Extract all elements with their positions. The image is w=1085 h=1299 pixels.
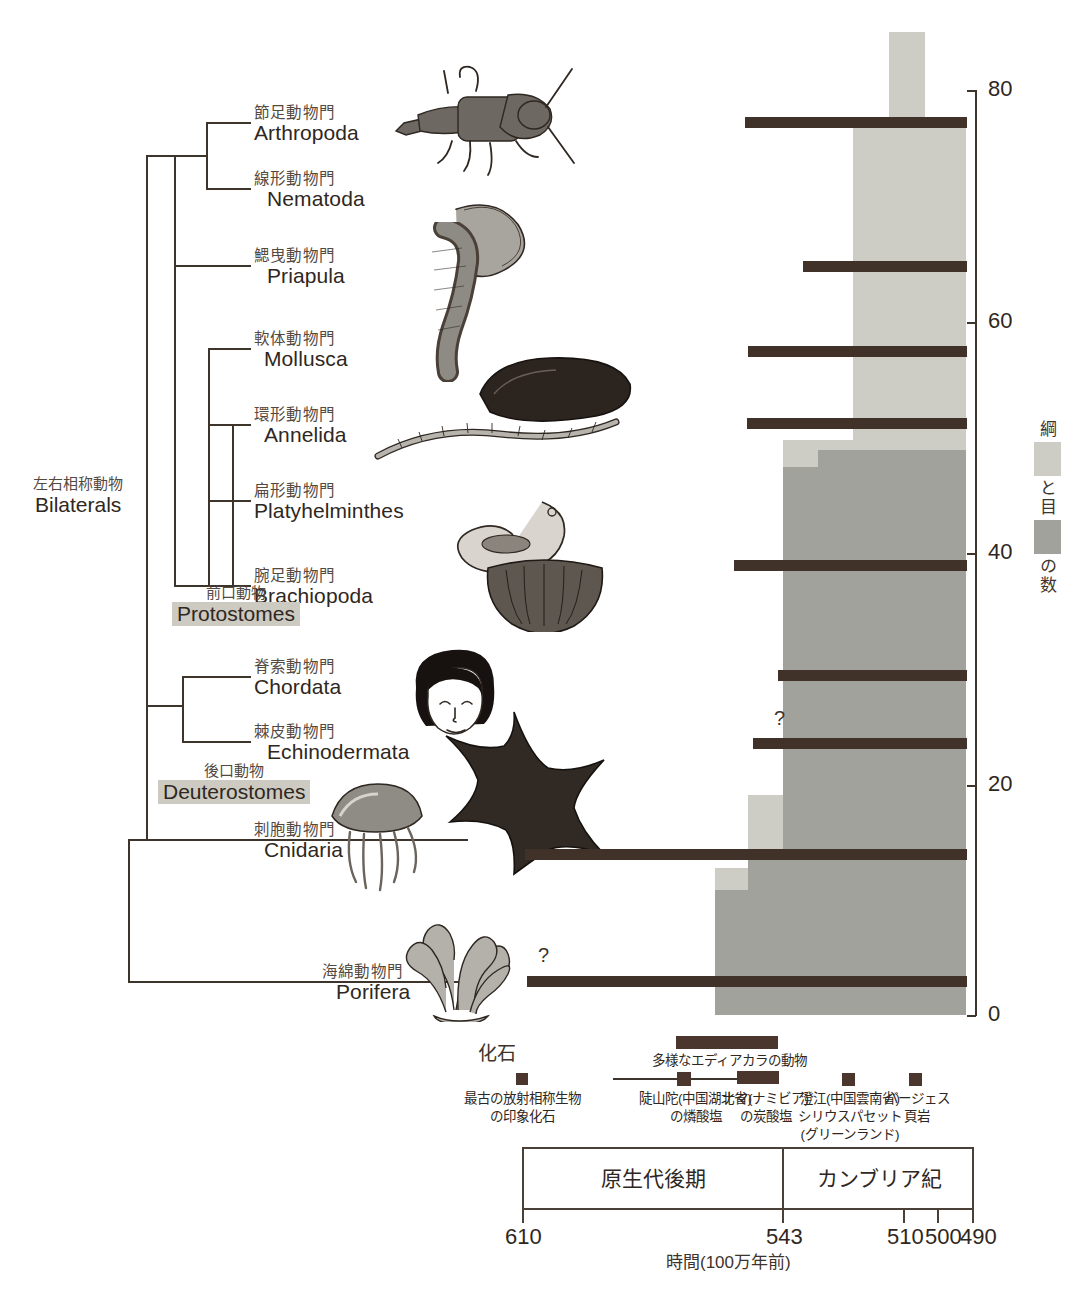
y-tick-label-0: 0 — [988, 1001, 1000, 1027]
time-tick-510 — [903, 1210, 905, 1223]
time-tick-500 — [937, 1210, 939, 1223]
y-tick-20 — [967, 785, 976, 787]
fossil-marker-chengjiang — [842, 1073, 855, 1086]
time-tick-610 — [522, 1210, 524, 1223]
y-tick-label-60: 60 — [988, 308, 1012, 334]
y-tick-60 — [967, 322, 976, 324]
y-tick-label-80: 80 — [988, 76, 1012, 102]
range-bar-porifera — [527, 976, 967, 987]
range-bar-echinodermata — [753, 738, 967, 749]
time-label-610: 610 — [505, 1224, 542, 1250]
order-step-553-543 — [715, 890, 749, 1015]
y-tick-label-20: 20 — [988, 771, 1012, 797]
y-tick-label-40: 40 — [988, 539, 1012, 565]
fossil-label-ediacaran-fauna: 多様なエディアカラの動物 — [629, 1052, 829, 1070]
chart-legend: 綱 と目 の数 — [1025, 420, 1069, 595]
legend-label-classes: 綱 — [1035, 420, 1060, 439]
uncertainty-marker-porifera: ? — [538, 944, 549, 967]
y-tick-0 — [967, 1015, 976, 1017]
legend-label-orders: と目 — [1035, 479, 1060, 517]
range-bar-cnidaria — [525, 849, 967, 860]
fossil-heading: 化石 — [478, 1038, 516, 1065]
fossil-marker-ediacaran-fauna — [676, 1036, 778, 1049]
time-label-510: 510 — [887, 1224, 924, 1250]
order-step-543-535 — [748, 850, 784, 1015]
fossil-label-burgess-shale: バージェス 頁岩 — [872, 1090, 962, 1126]
time-label-543: 543 — [766, 1224, 803, 1250]
time-label-490: 490 — [960, 1224, 997, 1250]
range-bar-priapula — [803, 261, 967, 272]
legend-label-count: の数 — [1035, 557, 1060, 595]
range-bar-arthropoda — [745, 117, 967, 128]
fossil-marker-doushantuo — [677, 1072, 691, 1086]
range-bar-annelida — [747, 418, 967, 429]
fossil-label-oldest-radial-impression: 最古の放射相称生物 の印象化石 — [440, 1090, 605, 1126]
fossil-marker-burgess-shale — [909, 1073, 922, 1086]
figure-root: 節足動物門 Arthropoda 線形動物門 Nematoda 鰓曳動物門 Pr… — [0, 0, 1085, 1299]
time-tick-543 — [782, 1210, 784, 1223]
period-label-cambrian: カンブリア紀 — [784, 1162, 974, 1192]
range-bar-brachiopoda — [734, 560, 967, 571]
time-label-500: 500 — [925, 1224, 962, 1250]
time-tick-490 — [972, 1210, 974, 1223]
uncertainty-marker-echinodermata: ? — [774, 707, 785, 730]
time-axis-caption: 時間(100万年前) — [666, 1248, 791, 1273]
range-bar-mollusca — [748, 346, 967, 357]
fossil-marker-nama-carbonate — [737, 1071, 779, 1084]
order-step-513-487 — [853, 450, 966, 1015]
fossil-marker-oldest-radial-impression — [516, 1073, 528, 1085]
legend-swatch-orders — [1034, 520, 1061, 554]
order-step-527-513 — [818, 450, 854, 1015]
period-label-late-proterozoic: 原生代後期 — [524, 1162, 782, 1192]
range-bar-chordata — [778, 670, 967, 681]
y-tick-80 — [967, 90, 976, 92]
legend-swatch-classes — [1034, 442, 1061, 476]
y-tick-40 — [967, 553, 976, 555]
